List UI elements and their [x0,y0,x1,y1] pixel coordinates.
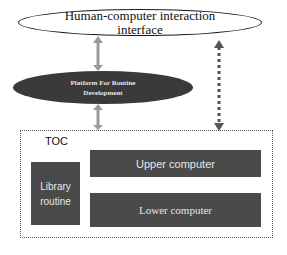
library-line2: routine [31,194,80,209]
upper-computer-box: Upper computer [90,150,261,177]
upper-computer-label: Upper computer [136,158,215,170]
platform-label: Platform For Routine Development [13,78,193,98]
lower-computer-box: Lower computer [90,193,261,227]
platform-label-line2: Development [13,88,193,98]
hci-label-line2: interface [18,23,262,37]
hci-label-line1: Human-computer interaction [18,9,262,23]
lower-computer-label: Lower computer [139,204,212,216]
hci-platform-arrow [93,36,103,71]
toc-label: TOC [45,135,68,147]
hci-label: Human-computer interaction interface [18,9,262,37]
hci-toc-dotted-arrow [214,40,224,131]
platform-label-line1: Platform For Routine [13,78,193,88]
library-routine-box: Library routine [31,162,80,225]
platform-toc-arrow [93,104,103,130]
library-line1: Library [31,179,80,194]
